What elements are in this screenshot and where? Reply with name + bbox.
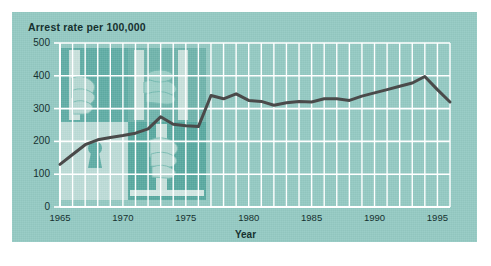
figure-container: Arrest rate per 100,000 0100200300400500… [0,0,491,266]
axis-lines [60,43,450,207]
x-axis-title: Year [0,229,491,240]
data-series-line [60,77,450,165]
plot-area [0,0,491,266]
vertical-gridlines [60,43,450,207]
horizontal-gridlines [60,43,450,174]
